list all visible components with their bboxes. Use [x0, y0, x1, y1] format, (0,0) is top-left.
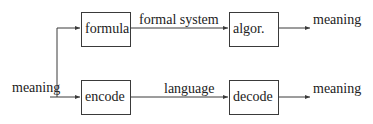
bottom-output-meaning-label: meaning [313, 81, 361, 96]
top-output-meaning-label: meaning [313, 12, 361, 27]
decode-label: decode [233, 89, 273, 104]
top-row: formula formal system algor. meaning [82, 12, 362, 47]
language-label: language [164, 81, 215, 96]
algor-label: algor. [233, 21, 265, 36]
bottom-row: encode language decode meaning [82, 81, 362, 115]
formal-system-label: formal system [139, 12, 219, 27]
input-meaning-label: meaning [12, 80, 60, 95]
encode-label: encode [85, 89, 125, 104]
formula-label: formula [85, 21, 130, 36]
flow-diagram: meaning formula formal system algor. mea… [0, 0, 373, 124]
